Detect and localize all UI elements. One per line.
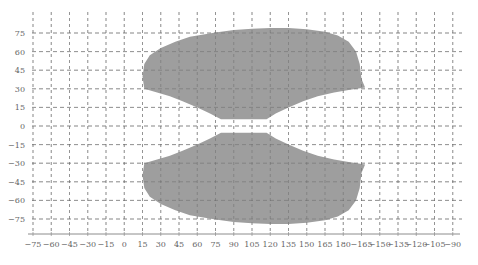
y-tick-label: 45 [15, 66, 25, 75]
y-tick-label: 30 [15, 85, 25, 94]
y-tick-label: 60 [15, 48, 25, 57]
y-tick-label: −15 [8, 141, 25, 150]
upper-region [143, 28, 366, 119]
y-tick-label: 0 [20, 122, 25, 131]
y-tick-label: −60 [8, 196, 25, 205]
x-tick-label: −90 [444, 240, 461, 249]
x-axis-tick-labels: −75−60−45−30−150153045607590105120135150… [25, 232, 462, 249]
y-tick-label: −30 [8, 159, 25, 168]
x-tick-label: 15 [137, 240, 147, 249]
x-tick-label: −60 [43, 240, 60, 249]
x-tick-label: −75 [25, 240, 42, 249]
y-tick-label: −75 [8, 215, 25, 224]
x-tick-label: 120 [263, 240, 278, 249]
chart: −75−60−45−30−150153045607590105120135150… [0, 0, 478, 265]
x-tick-label: 150 [299, 240, 314, 249]
y-axis-tick-labels: 75604530150−15−30−45−60−75 [8, 29, 25, 224]
x-tick-label: −105 [424, 240, 446, 249]
y-tick-label: −45 [8, 178, 25, 187]
x-tick-label: 165 [317, 240, 332, 249]
x-tick-label: 135 [281, 240, 296, 249]
x-tick-label: 30 [156, 240, 166, 249]
lower-region [143, 133, 366, 224]
x-tick-label: 0 [122, 240, 127, 249]
x-tick-label: −45 [61, 240, 78, 249]
x-tick-label: −30 [79, 240, 96, 249]
x-tick-label: 60 [192, 240, 202, 249]
x-tick-label: 90 [229, 240, 239, 249]
y-tick-label: 15 [15, 103, 25, 112]
x-tick-label: 180 [336, 240, 351, 249]
x-tick-label: 105 [244, 240, 259, 249]
x-tick-label: 75 [210, 240, 220, 249]
y-tick-label: 75 [15, 29, 25, 38]
x-tick-label: −15 [98, 240, 115, 249]
x-tick-label: 45 [174, 240, 184, 249]
